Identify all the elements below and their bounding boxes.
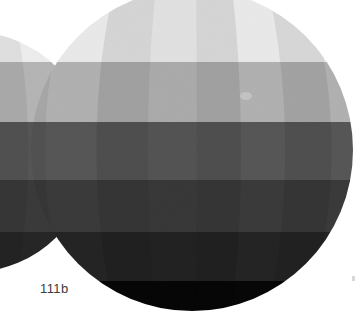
paper-grain [31, 0, 353, 311]
figure-canvas: 111b [0, 0, 363, 322]
surface-speck [240, 92, 252, 100]
sphere-diagram [0, 0, 363, 322]
margin-mark [352, 276, 355, 281]
figure-caption-111b: 111b [40, 281, 69, 296]
